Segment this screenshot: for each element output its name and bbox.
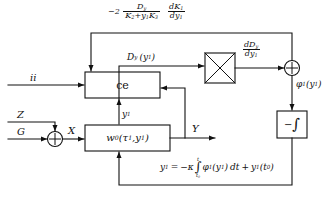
top-feedback-formula: −2 Dy K2+y1K3 dK1 dy1: [108, 3, 186, 20]
input-u-label: ii: [30, 73, 36, 83]
block-diagram-canvas: −2 Dy K2+y1K3 dK1 dy1 Dy (y1) dDy dy1 φ1: [0, 0, 324, 197]
input-z-label: Z: [17, 110, 24, 120]
x-signal-label: X: [68, 126, 75, 136]
input-z-line: [8, 122, 55, 131]
negative-integrator-block-label[interactable]: − ∫: [277, 111, 307, 138]
multiplier-cross-icon: [205, 53, 235, 83]
y1-feedback-label: y1: [122, 110, 131, 119]
input-g-label: G: [17, 127, 25, 137]
plant-transfer-block-label[interactable]: w0(τ1,y1): [85, 125, 170, 151]
dy-signal-label: Dy (y1): [127, 53, 155, 62]
phi-signal-label: φ1(y1): [296, 80, 322, 89]
ddy-signal-label: dDy dy1: [241, 41, 261, 58]
top-feedback-path: [91, 33, 292, 71]
controller-block-label[interactable]: ce: [85, 72, 160, 98]
bottom-integral-formula: y1 = −κ t ∫ t0 φ1(y1) dt + y1(t0): [160, 157, 274, 179]
output-y-label: Y: [192, 124, 199, 134]
